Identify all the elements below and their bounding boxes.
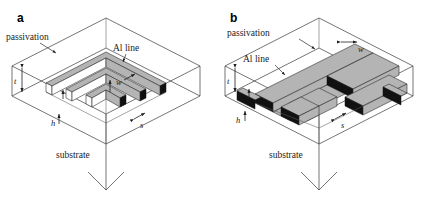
dim-s-arrow-a — [134, 113, 145, 119]
dim-s-arrow-b — [335, 113, 346, 119]
panel-letter-b: b — [230, 11, 237, 25]
al-line-label-a: Al line — [113, 43, 139, 53]
substrate-label-a: substrate — [56, 150, 90, 160]
figure-canvas: a — [0, 0, 426, 202]
dim-h-label-a: h — [51, 118, 55, 128]
panel-letter-a: a — [17, 11, 24, 25]
dim-h-label-b: h — [236, 115, 240, 125]
dim-s-label-b: s — [341, 120, 345, 130]
panel-a: a — [0, 0, 213, 202]
panel-b-drawing: b — [213, 0, 426, 202]
passivation-leader-b — [299, 39, 315, 49]
panel-a-drawing: a — [0, 0, 213, 202]
dim-t-label-b: t — [227, 76, 230, 86]
dim-w-label-a: w — [116, 77, 122, 87]
dim-w-label-b: w — [358, 44, 364, 54]
passivation-label-b: passivation — [227, 28, 270, 38]
panel-b: b — [213, 0, 426, 202]
substrate-label-b: substrate — [269, 150, 303, 160]
passivation-label-a: passivation — [6, 32, 49, 42]
dim-t-label-a: t — [14, 76, 17, 86]
al-line-label-b: Al line — [243, 54, 269, 64]
